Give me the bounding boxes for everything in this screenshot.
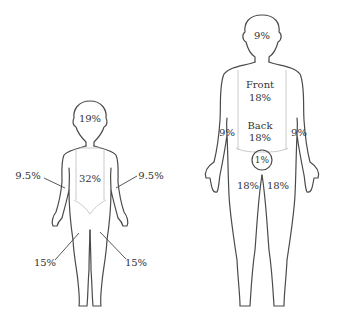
adult-genital-percent: 1% <box>255 156 269 165</box>
adult-left-leg-percent: 18% <box>237 181 259 191</box>
child-left-leg-percent: 15% <box>34 258 56 268</box>
adult-left-arm-percent: 9% <box>219 128 235 138</box>
adult-front-label: Front <box>246 80 274 90</box>
child-figure <box>44 101 137 306</box>
adult-back-percent: 18% <box>249 133 271 143</box>
child-right-leg-percent: 15% <box>125 258 147 268</box>
child-trunk-percent: 32% <box>79 174 101 184</box>
figures-drawing <box>0 0 344 323</box>
adult-right-arm-percent: 9% <box>291 128 307 138</box>
adult-head-percent: 9% <box>254 31 270 41</box>
adult-front-percent: 18% <box>249 93 271 103</box>
child-left-arm-percent: 9.5% <box>15 171 40 181</box>
adult-back-label: Back <box>248 121 273 131</box>
adult-right-leg-percent: 18% <box>267 181 289 191</box>
child-right-arm-percent: 9.5% <box>138 171 163 181</box>
child-head-percent: 19% <box>79 114 101 124</box>
